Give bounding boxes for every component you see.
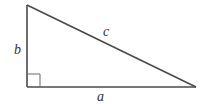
side-c-hypotenuse-line <box>27 5 196 87</box>
right-triangle-diagram: b c a <box>0 0 206 104</box>
label-b: b <box>14 42 21 57</box>
triangle <box>27 5 196 87</box>
right-angle-marker <box>27 74 40 87</box>
label-a: a <box>97 89 104 104</box>
label-c: c <box>103 24 110 39</box>
